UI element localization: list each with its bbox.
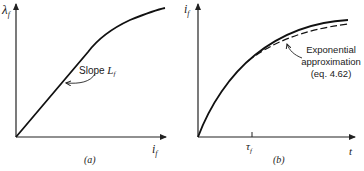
figure: λf if Slope Lf (a) if t τf Exponential a…: [0, 0, 364, 171]
panel-b: if t τf Exponential approximation (eq. 4…: [184, 2, 361, 166]
svg-text:Exponential: Exponential: [306, 44, 356, 55]
panel-label-b: (b): [273, 154, 285, 166]
approximation-arrow: [287, 44, 302, 58]
y-axis-label: λf: [1, 2, 12, 19]
svg-text:(eq. 4.62): (eq. 4.62): [311, 68, 352, 79]
tau-tick-label: τf: [246, 140, 253, 155]
approximation-annotation: Exponential approximation (eq. 4.62): [301, 44, 361, 79]
svg-text:approximation: approximation: [301, 56, 361, 67]
panel-a: λf if Slope Lf (a): [1, 2, 166, 166]
slope-annotation: Slope Lf: [79, 64, 116, 78]
panel-label-a: (a): [84, 154, 96, 166]
y-axis-label: if: [184, 2, 191, 18]
x-axis-label: if: [152, 142, 159, 158]
x-axis-label: t: [349, 145, 353, 157]
